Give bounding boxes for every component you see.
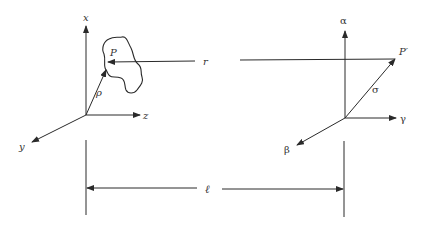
gamma-axis-label: γ (400, 113, 406, 124)
r-label: r (203, 56, 209, 67)
y-axis-line (32, 115, 86, 142)
right-coordinate-frame: α γ β P′ σ (284, 15, 409, 155)
rho-label: ρ (95, 87, 102, 98)
beta-axis-line (297, 118, 345, 145)
l-label: ℓ (205, 183, 210, 196)
distance-vector: r (108, 56, 395, 67)
r-vector-line-right (240, 59, 395, 60)
sigma-label: σ (372, 84, 379, 95)
x-axis-label: x (83, 12, 89, 23)
source-region-blob (103, 37, 143, 93)
alpha-axis-label: α (340, 15, 347, 26)
left-coordinate-frame: x z y P ρ (18, 12, 149, 152)
beta-axis-label: β (284, 144, 290, 155)
r-vector-line-left (108, 61, 195, 62)
diagram-canvas: x z y P ρ r α γ β P′ σ (0, 0, 426, 225)
separation-dimension: ℓ (86, 140, 344, 217)
z-axis-label: z (142, 110, 149, 121)
sigma-vector-line (345, 59, 395, 118)
y-axis-label: y (18, 141, 25, 152)
point-p-label: P (109, 47, 117, 58)
point-p-prime-label: P′ (398, 46, 409, 57)
